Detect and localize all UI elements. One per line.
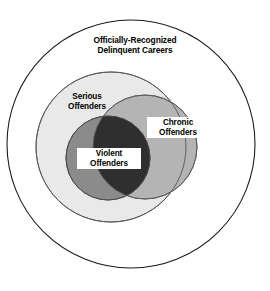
venn-diagram-canvas <box>0 0 270 291</box>
venn-diagram: Officially-Recognized Delinquent Careers… <box>0 0 270 291</box>
